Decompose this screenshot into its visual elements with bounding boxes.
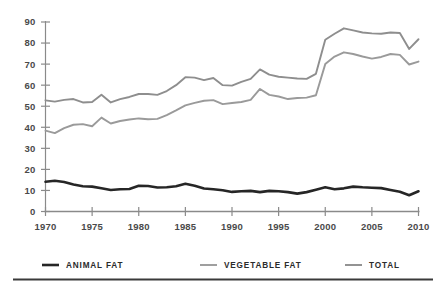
y-tick-label: 40 <box>25 122 36 133</box>
legend-label-animal-fat[interactable]: ANIMAL FAT <box>66 261 123 270</box>
y-tick-label: 50 <box>25 101 36 112</box>
y-tick-label: 60 <box>25 80 36 91</box>
x-tick-label: 2000 <box>314 221 336 232</box>
x-tick-label: 2010 <box>408 221 430 232</box>
y-tick-label: 30 <box>25 143 36 154</box>
chart-container: 0102030405060708090 19701975198019851990… <box>0 0 446 286</box>
y-tick-label: 20 <box>25 164 36 175</box>
chart-background <box>0 0 446 286</box>
fat-consumption-line-chart: 0102030405060708090 19701975198019851990… <box>0 0 446 286</box>
legend-label-total[interactable]: TOTAL <box>369 261 400 270</box>
y-tick-label: 80 <box>25 37 36 48</box>
y-tick-label: 90 <box>25 16 36 27</box>
x-tick-label: 1985 <box>174 221 196 232</box>
x-tick-label: 1980 <box>128 221 150 232</box>
x-tick-label: 1975 <box>81 221 103 232</box>
x-tick-label: 1995 <box>268 221 290 232</box>
x-tick-label: 2005 <box>361 221 383 232</box>
x-tick-label: 1990 <box>221 221 243 232</box>
x-tick-label: 1970 <box>35 221 57 232</box>
y-tick-label: 70 <box>25 59 36 70</box>
legend-label-vegetable-fat[interactable]: VEGETABLE FAT <box>224 261 302 270</box>
y-tick-label: 0 <box>30 206 35 217</box>
y-tick-label: 10 <box>25 185 36 196</box>
